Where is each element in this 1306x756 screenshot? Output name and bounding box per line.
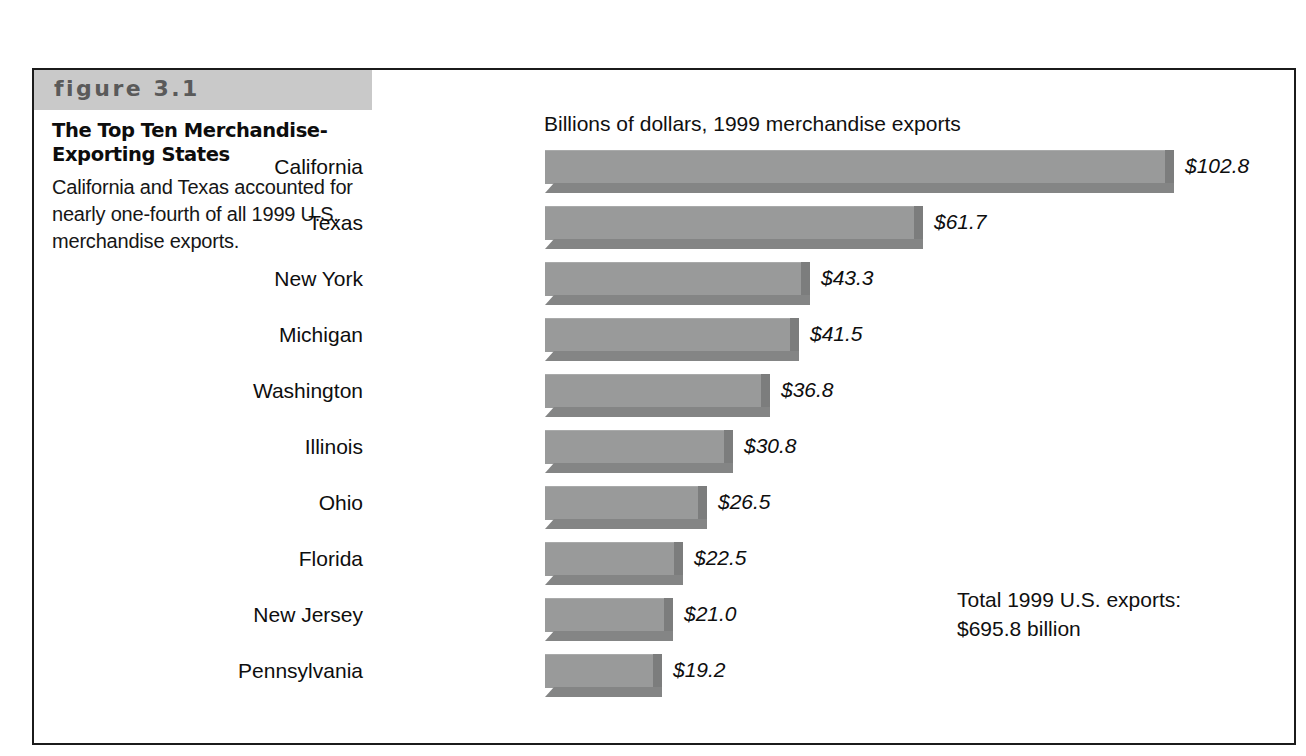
bar: $61.7 [545,206,923,250]
bar-bottom-face [545,407,770,417]
bar: $102.8 [545,150,1174,194]
bar-value-label: $36.8 [781,378,834,402]
chart-area: Billions of dollars, 1999 merchandise ex… [372,70,1294,743]
bar-row: California$102.8 [372,150,1298,194]
bar-row: Texas$61.7 [372,206,1298,250]
bar-category-label: Michigan [133,323,372,347]
bar-side-face [664,598,673,631]
bar: $41.5 [545,318,799,362]
bar: $19.2 [545,654,662,698]
total-exports-line-2: $695.8 billion [957,614,1181,643]
bar-row: Ohio$26.5 [372,486,1298,530]
bar-bottom-face [545,351,799,361]
chart-title: Billions of dollars, 1999 merchandise ex… [544,112,961,136]
bar-side-face [1165,150,1174,183]
bar-category-label: Florida [133,547,372,571]
bar: $30.8 [545,430,733,474]
bar-face [545,486,698,520]
bar-row: Michigan$41.5 [372,318,1298,362]
bar-category-label: New Jersey [133,603,372,627]
bar-bottom-face [545,239,923,249]
bar-value-label: $61.7 [934,210,987,234]
bar: $36.8 [545,374,770,418]
bar-value-label: $21.0 [684,602,737,626]
bar-face [545,206,914,240]
bar-bottom-face [545,631,673,641]
bar-bottom-face [545,463,733,473]
bar-row: Pennsylvania$19.2 [372,654,1298,698]
bar-bottom-face [545,575,683,585]
bar: $43.3 [545,262,810,306]
bar-row: New York$43.3 [372,262,1298,306]
bar-value-label: $22.5 [694,546,747,570]
bar-side-face [653,654,662,687]
total-exports-line-1: Total 1999 U.S. exports: [957,585,1181,614]
bar-category-label: Illinois [133,435,372,459]
bar-side-face [914,206,923,239]
bar-value-label: $30.8 [744,434,797,458]
bar-bottom-face [545,519,707,529]
bar-row: Illinois$30.8 [372,430,1298,474]
bar-side-face [790,318,799,351]
bar-side-face [698,486,707,519]
bar-side-face [674,542,683,575]
bar-side-face [761,374,770,407]
bar-category-label: Pennsylvania [133,659,372,683]
bar-value-label: $19.2 [673,658,726,682]
bar-category-label: Texas [133,211,372,235]
figure-number: figure 3.1 [54,76,200,101]
bar-bottom-face [545,687,662,697]
bar-bottom-face [545,295,810,305]
bar-row: Washington$36.8 [372,374,1298,418]
bar-value-label: $43.3 [821,266,874,290]
bar-category-label: California [133,155,372,179]
bar-category-label: New York [133,267,372,291]
bar-face [545,374,761,408]
figure-frame: figure 3.1 The Top Ten Merchandise-Expor… [32,68,1296,745]
bar-category-label: Ohio [133,491,372,515]
bar: $21.0 [545,598,673,642]
bar-value-label: $102.8 [1185,154,1249,178]
bar: $26.5 [545,486,707,530]
bar-value-label: $26.5 [718,490,771,514]
bar-face [545,318,790,352]
bar-face [545,654,653,688]
bar-face [545,542,674,576]
bar-category-label: Washington [133,379,372,403]
total-exports-annotation: Total 1999 U.S. exports: $695.8 billion [957,585,1181,643]
bar-face [545,262,801,296]
bar-value-label: $41.5 [810,322,863,346]
bar-row: Florida$22.5 [372,542,1298,586]
bar-side-face [724,430,733,463]
bar: $22.5 [545,542,683,586]
bar-face [545,598,664,632]
bar-face [545,150,1165,184]
bar-bottom-face [545,183,1174,193]
bar-side-face [801,262,810,295]
bar-face [545,430,724,464]
